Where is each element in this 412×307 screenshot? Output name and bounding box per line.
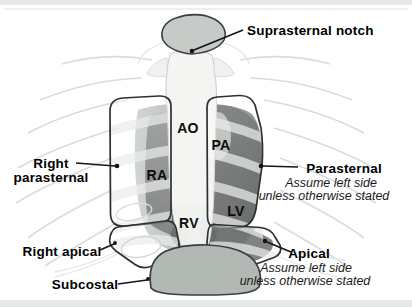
manubrium-wing-right [214, 58, 234, 77]
label-parasternal-note2: unless otherwise stated [259, 189, 391, 203]
right-parasternal-window [110, 96, 171, 226]
manubrium-wing-left [147, 58, 167, 77]
label-apical: Apical [288, 246, 330, 261]
label-apical-note1: Assume left side [259, 261, 352, 275]
label-suprasternal-notch: Suprasternal notch [247, 23, 374, 38]
page-edge-band-bottom [0, 300, 412, 307]
label-parasternal-note1: Assume left side [284, 176, 377, 190]
label-pulmonary-artery: PA [211, 137, 230, 153]
clavicle-right [224, 43, 249, 64]
label-right-parasternal-line2: parasternal [14, 170, 89, 185]
label-right-parasternal-line1: Right [33, 156, 69, 171]
thorax-diagram: AO PA RA LV RV Suprasternal notch Right … [0, 0, 412, 307]
label-right-atrium: RA [147, 167, 168, 183]
label-left-ventricle: LV [227, 203, 245, 219]
suprasternal-site-shape [162, 15, 225, 54]
label-parasternal: Parasternal [306, 161, 382, 176]
label-aorta: AO [177, 120, 199, 136]
page-edge-band-top [0, 0, 412, 5]
label-apical-note2: unless otherwise stated [240, 274, 372, 288]
figure-echocardiography-windows: AO PA RA LV RV Suprasternal notch Right … [0, 0, 412, 307]
label-subcostal: Subcostal [52, 277, 118, 292]
label-right-ventricle: RV [179, 215, 199, 231]
label-right-apical: Right apical [23, 244, 102, 259]
